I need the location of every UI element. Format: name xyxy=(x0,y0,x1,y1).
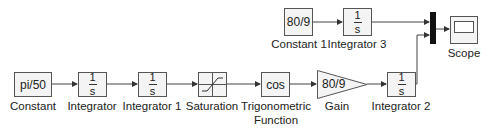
denominator: s xyxy=(399,86,405,97)
saturation-icon xyxy=(199,73,226,96)
numerator: 1 xyxy=(354,10,360,21)
trig-function-block[interactable]: cos xyxy=(261,72,290,97)
transfer-function: 1 s xyxy=(398,72,406,97)
integrator2-label: Integrator 2 xyxy=(372,99,431,113)
denominator: s xyxy=(355,24,361,35)
constant1-value: 80/9 xyxy=(287,15,310,29)
scope-block[interactable] xyxy=(450,16,478,44)
numerator: 1 xyxy=(89,72,95,83)
constant1-block[interactable]: 80/9 xyxy=(284,8,313,36)
integrator3-label: Integrator 3 xyxy=(328,37,387,51)
trig-function-label-line1: Trigonometric xyxy=(241,99,311,113)
transfer-function: 1 s xyxy=(149,72,157,97)
scope-label: Scope xyxy=(448,46,481,60)
transfer-function: 1 s xyxy=(89,72,97,97)
saturation-label: Saturation xyxy=(186,99,238,113)
numerator: 1 xyxy=(398,72,404,83)
gain-value: 80/9 xyxy=(322,77,345,91)
constant1-label: Constant 1 xyxy=(271,37,327,51)
integrator3-block[interactable]: 1 s xyxy=(343,8,372,36)
saturation-block[interactable] xyxy=(198,72,227,97)
signal-wires xyxy=(0,0,491,138)
integrator1-block[interactable]: 1 s xyxy=(138,72,167,97)
trig-function-value: cos xyxy=(266,78,285,92)
mux-block[interactable] xyxy=(430,12,436,44)
denominator: s xyxy=(90,86,96,97)
simulink-diagram: pi/50 Constant 1 s Integrator 1 s Integr… xyxy=(0,0,491,138)
trig-function-label-line2: Function xyxy=(254,113,298,127)
scope-screen-icon xyxy=(454,21,474,33)
integrator1-label: Integrator 1 xyxy=(123,99,182,113)
denominator: s xyxy=(150,86,156,97)
gain-block[interactable]: 80/9 xyxy=(317,70,368,99)
transfer-function: 1 s xyxy=(354,10,362,35)
constant-value: pi/50 xyxy=(20,78,46,92)
numerator: 1 xyxy=(149,72,155,83)
integrator-label: Integrator xyxy=(67,99,116,113)
integrator2-block[interactable]: 1 s xyxy=(387,72,416,97)
constant-label: Constant xyxy=(10,99,56,113)
constant-block[interactable]: pi/50 xyxy=(14,72,52,97)
integrator-block[interactable]: 1 s xyxy=(78,72,107,97)
gain-label: Gain xyxy=(325,99,349,113)
